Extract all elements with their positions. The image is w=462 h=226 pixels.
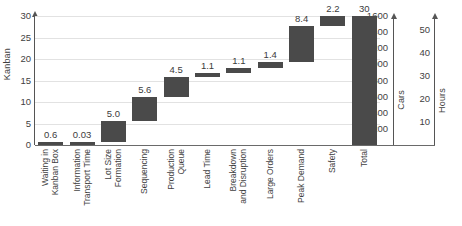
category-label-line: Kanban Box — [51, 149, 60, 195]
y-axis-tick-30: 30 — [20, 11, 31, 21]
y-axis-tick-20: 20 — [20, 54, 31, 64]
y-axis-tick-25: 25 — [20, 33, 31, 43]
bar-value-label-10: 30 — [344, 4, 384, 14]
hours-tick-40: 40 — [419, 48, 430, 58]
category-label-line: Large Orders — [266, 149, 275, 199]
category-label-line: Lead Time — [203, 149, 212, 189]
category-label-line: Transport Time — [83, 149, 92, 206]
bar-1 — [70, 142, 95, 145]
y-axis-tick-0: 0 — [26, 140, 31, 150]
bar-8 — [289, 26, 314, 62]
secondary-axes-baseline — [393, 145, 435, 146]
category-label-4: ProductionQueue — [160, 149, 191, 223]
category-label-line: Information — [73, 149, 82, 192]
category-label-3: Sequencing — [129, 149, 160, 223]
waterfall-chart: Kanban 051015202530 Waiting inKanban Box… — [0, 0, 462, 226]
category-label-7: Large Orders — [255, 149, 286, 223]
category-label-line: Lot Size — [104, 149, 113, 180]
bar-2 — [101, 121, 126, 143]
bar-value-label-7: 1.4 — [250, 50, 290, 60]
category-label-line: Formation — [114, 149, 123, 187]
bar-0 — [38, 142, 63, 145]
gridline-10 — [35, 102, 380, 103]
hours-tick-50: 50 — [419, 25, 430, 35]
bar-6 — [226, 68, 251, 73]
gridline-5 — [35, 124, 380, 125]
bar-total — [352, 16, 377, 145]
hours-axis-tick-labels: 1020304050 — [400, 0, 432, 226]
bar-5 — [195, 73, 220, 78]
bar-9 — [320, 16, 345, 25]
bar-value-label-3: 5.6 — [125, 85, 165, 95]
hours-axis-arrow-icon — [432, 13, 438, 19]
gridline-15 — [35, 81, 380, 82]
plot-area — [35, 16, 380, 145]
category-label-line: Queue — [177, 149, 186, 175]
bar-value-label-8: 8.4 — [282, 14, 322, 24]
bar-value-label-1: 0.03 — [62, 130, 102, 140]
category-label-line: Waiting in — [41, 149, 50, 186]
category-label-line: Safety — [328, 149, 337, 173]
y-axis-tick-10: 10 — [20, 97, 31, 107]
category-label-line: and Disruption — [239, 149, 248, 204]
category-label-6: Breakdownand Disruption — [223, 149, 254, 223]
y-axis-tick-15: 15 — [20, 76, 31, 86]
category-label-8: Peak Demand — [286, 149, 317, 223]
category-label-line: Peak Demand — [297, 149, 306, 203]
y-axis-tick-labels: 051015202530 — [0, 0, 31, 226]
hours-tick-20: 20 — [419, 94, 430, 104]
cars-axis-arrow-icon — [391, 13, 397, 19]
category-label-1: InformationTransport Time — [66, 149, 97, 223]
category-label-0: Waiting inKanban Box — [35, 149, 66, 223]
category-label-line: Production — [167, 149, 176, 190]
axis-title-hours: Hours — [437, 88, 447, 113]
hours-axis-line — [434, 18, 435, 145]
category-label-2: Lot SizeFormation — [98, 149, 129, 223]
y-axis-tick-5: 5 — [26, 119, 31, 129]
bar-value-label-2: 5.0 — [93, 109, 133, 119]
hours-tick-30: 30 — [419, 71, 430, 81]
category-label-line: Breakdown — [229, 149, 238, 192]
category-label-9: Safety — [317, 149, 348, 223]
category-label-5: Lead Time — [192, 149, 223, 223]
category-label-line: Sequencing — [140, 149, 149, 194]
hours-tick-10: 10 — [419, 117, 430, 127]
bar-3 — [132, 97, 157, 121]
gridline-25 — [35, 38, 380, 39]
bar-4 — [164, 77, 189, 96]
cars-axis-line — [393, 18, 394, 145]
bar-7 — [258, 62, 283, 68]
